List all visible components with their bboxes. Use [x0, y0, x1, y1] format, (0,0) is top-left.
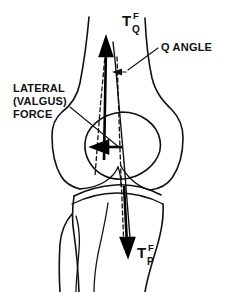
- quadriceps-tension-base: T: [122, 12, 131, 29]
- tibial-plateau-lower-contour: [72, 193, 163, 204]
- patellar-tendon-tension-superscript: F: [148, 242, 154, 253]
- patellar-tendon-tension-subscript: P: [147, 256, 154, 267]
- tibia-inner-ridge: [94, 203, 108, 292]
- q-angle-leader-line: [128, 48, 158, 70]
- patellar-tendon-tension-base: T: [137, 244, 146, 261]
- tibial-plateau-edge: [74, 185, 161, 196]
- tibia-medial-outline: [73, 196, 80, 292]
- knee-q-angle-diagram: Q ANGLE LATERAL (VALGUS) FORCE T F Q T F…: [0, 0, 232, 292]
- q-angle-label: Q ANGLE: [161, 41, 212, 53]
- lateral-force-label-line1: LATERAL: [13, 82, 65, 94]
- diagram-canvas: Q ANGLE LATERAL (VALGUS) FORCE T F Q T F…: [0, 0, 232, 292]
- fibula-lateral-outline: [59, 214, 72, 292]
- quadriceps-tension-symbol: T F Q: [122, 10, 140, 35]
- patellar-tendon-tension-symbol: T F P: [137, 242, 154, 267]
- q-angle-vertex-marker: [112, 69, 126, 76]
- lateral-force-label-line2: (VALGUS): [13, 95, 67, 107]
- quadriceps-tension-subscript: Q: [132, 24, 140, 35]
- quadriceps-tension-superscript: F: [133, 10, 139, 21]
- lateral-force-label-line3: FORCE: [13, 108, 53, 120]
